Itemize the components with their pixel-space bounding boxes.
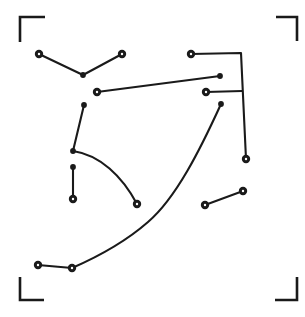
vector-scene [0, 0, 305, 317]
path-right-stub-to-vertical[interactable] [206, 91, 242, 92]
node-center-dot [205, 91, 207, 93]
node-center-dot [37, 264, 39, 266]
node-center-dot [190, 53, 192, 55]
node-sweep-end[interactable] [34, 261, 42, 269]
node-center-dot [136, 203, 138, 205]
node-disc [217, 73, 223, 79]
node-line-right[interactable] [217, 73, 223, 79]
node-short-vert-top[interactable] [70, 164, 76, 170]
node-disc [70, 164, 76, 170]
node-bracket-start[interactable] [187, 50, 195, 58]
node-center-dot [245, 158, 247, 160]
node-stub-left[interactable] [202, 88, 210, 96]
sketch-canvas [0, 0, 305, 317]
node-upper-left[interactable] [35, 50, 43, 58]
node-center-dot [72, 198, 74, 200]
node-elbow-top[interactable] [81, 102, 87, 108]
node-sweep-top[interactable] [218, 101, 224, 107]
node-center-dot [96, 91, 98, 93]
node-center-dot [71, 267, 73, 269]
node-sweep-mid[interactable] [68, 264, 76, 272]
node-elbow-vertex[interactable] [70, 148, 76, 154]
node-disc [80, 72, 86, 78]
node-center-dot [242, 190, 244, 192]
node-disc [70, 148, 76, 154]
node-center-dot [38, 53, 40, 55]
node-bracket-end[interactable] [242, 155, 250, 163]
node-curve-end-left[interactable] [133, 200, 141, 208]
canvas-background [0, 0, 305, 317]
node-short-vert-bottom[interactable] [69, 195, 77, 203]
node-vee-vertex[interactable] [80, 72, 86, 78]
node-diag-lower-left[interactable] [201, 201, 209, 209]
node-disc [218, 101, 224, 107]
node-upper-right-of-vee[interactable] [118, 50, 126, 58]
node-disc [81, 102, 87, 108]
node-center-dot [121, 53, 123, 55]
node-line-left[interactable] [93, 88, 101, 96]
node-diag-upper-right[interactable] [239, 187, 247, 195]
node-center-dot [204, 204, 206, 206]
